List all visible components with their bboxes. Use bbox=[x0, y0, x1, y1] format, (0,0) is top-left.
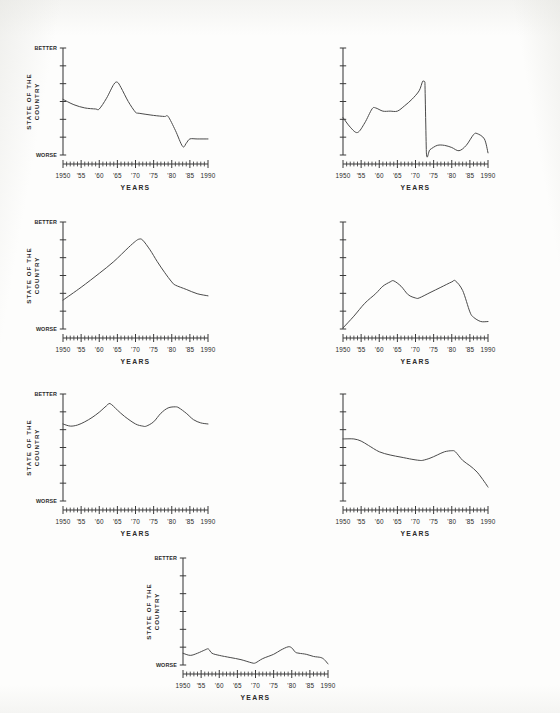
x-axis-title: YEARS bbox=[121, 358, 151, 365]
x-tick-label: 1990 bbox=[480, 518, 495, 525]
x-tick-label: 1990 bbox=[200, 172, 215, 179]
x-tick-label: '60 bbox=[215, 682, 224, 689]
x-tick-label: '85 bbox=[465, 518, 474, 525]
x-tick-label: 1950 bbox=[335, 518, 350, 525]
x-tick-label: '85 bbox=[185, 518, 194, 525]
data-line-panel-5 bbox=[63, 403, 208, 426]
y-axis-title-line2: COUNTRY bbox=[33, 83, 40, 121]
y-axis-worse-label: WORSE bbox=[36, 498, 57, 504]
x-tick-label: '85 bbox=[465, 172, 474, 179]
x-tick-label: '55 bbox=[77, 518, 86, 525]
x-tick-label: '85 bbox=[185, 346, 194, 353]
x-tick-label: '55 bbox=[357, 518, 366, 525]
data-line-panel-7 bbox=[183, 647, 328, 664]
x-tick-label: 1990 bbox=[320, 682, 335, 689]
x-tick-label: 1950 bbox=[175, 682, 190, 689]
x-tick-label: '65 bbox=[393, 346, 402, 353]
x-tick-label: '85 bbox=[305, 682, 314, 689]
y-axis-title-line2: COUNTRY bbox=[33, 429, 40, 467]
data-line-panel-4 bbox=[343, 280, 488, 328]
x-tick-label: '75 bbox=[149, 518, 158, 525]
x-axis-title: YEARS bbox=[241, 694, 271, 701]
x-tick-label: '65 bbox=[393, 518, 402, 525]
y-axis-worse-label: WORSE bbox=[156, 662, 177, 668]
x-tick-label: '55 bbox=[77, 346, 86, 353]
x-tick-label: 1950 bbox=[335, 346, 350, 353]
x-tick-label: 1950 bbox=[55, 518, 70, 525]
y-axis-better-label: BETTER bbox=[155, 555, 177, 561]
x-tick-label: '60 bbox=[95, 346, 104, 353]
y-axis-worse-label: WORSE bbox=[36, 326, 57, 332]
x-tick-label: '70 bbox=[131, 346, 140, 353]
y-axis-title-line2: COUNTRY bbox=[153, 593, 160, 631]
x-tick-label: '65 bbox=[233, 682, 242, 689]
x-tick-label: '75 bbox=[429, 172, 438, 179]
chart-panel-row1-left: BETTERWORSESTATE OF THECOUNTRY1950'55'60… bbox=[0, 22, 280, 202]
data-line-panel-1 bbox=[63, 82, 208, 147]
y-axis-title-line1: STATE OF THE bbox=[25, 247, 32, 303]
x-tick-label: 1950 bbox=[335, 172, 350, 179]
x-tick-label: '60 bbox=[375, 518, 384, 525]
x-tick-label: '75 bbox=[149, 346, 158, 353]
x-tick-label: '60 bbox=[375, 172, 384, 179]
x-tick-label: '65 bbox=[113, 346, 122, 353]
x-tick-label: '80 bbox=[287, 682, 296, 689]
y-axis-title-line1: STATE OF THE bbox=[25, 419, 32, 475]
x-axis-title: YEARS bbox=[121, 184, 151, 191]
y-axis-title-line1: STATE OF THE bbox=[25, 73, 32, 129]
x-tick-label: '75 bbox=[149, 172, 158, 179]
x-tick-label: '60 bbox=[95, 518, 104, 525]
y-axis-better-label: BETTER bbox=[35, 391, 57, 397]
x-axis-title: YEARS bbox=[401, 358, 431, 365]
x-tick-label: '80 bbox=[447, 172, 456, 179]
x-tick-label: '70 bbox=[131, 172, 140, 179]
chart-panel-row2-left: BETTERWORSESTATE OF THECOUNTRY1950'55'60… bbox=[0, 196, 280, 376]
chart-panel-row2-right: 1950'55'60'65'70'75'80'851990YEARS bbox=[280, 196, 560, 376]
x-tick-label: '85 bbox=[185, 172, 194, 179]
x-tick-label: '55 bbox=[77, 172, 86, 179]
x-tick-label: 1950 bbox=[55, 172, 70, 179]
x-tick-label: 1990 bbox=[200, 346, 215, 353]
x-tick-label: '75 bbox=[429, 346, 438, 353]
x-tick-label: 1990 bbox=[200, 518, 215, 525]
x-tick-label: '70 bbox=[411, 346, 420, 353]
y-axis-better-label: BETTER bbox=[35, 219, 57, 225]
data-line-panel-3 bbox=[63, 239, 208, 300]
x-tick-label: '80 bbox=[447, 346, 456, 353]
x-tick-label: '70 bbox=[251, 682, 260, 689]
x-tick-label: '65 bbox=[113, 518, 122, 525]
x-tick-label: '65 bbox=[113, 172, 122, 179]
y-axis-better-label: BETTER bbox=[35, 45, 57, 51]
y-axis-worse-label: WORSE bbox=[36, 152, 57, 158]
x-tick-label: '80 bbox=[167, 518, 176, 525]
x-tick-label: '80 bbox=[167, 172, 176, 179]
x-tick-label: '75 bbox=[269, 682, 278, 689]
x-tick-label: '55 bbox=[357, 172, 366, 179]
x-tick-label: '65 bbox=[393, 172, 402, 179]
x-tick-label: '85 bbox=[465, 346, 474, 353]
x-tick-label: '75 bbox=[429, 518, 438, 525]
x-tick-label: '80 bbox=[167, 346, 176, 353]
chart-panel-row4-center: BETTERWORSESTATE OF THECOUNTRY1950'55'60… bbox=[120, 532, 420, 712]
chart-panel-row3-left: BETTERWORSESTATE OF THECOUNTRY1950'55'60… bbox=[0, 368, 280, 548]
data-line-panel-2 bbox=[343, 81, 488, 157]
x-tick-label: '55 bbox=[357, 346, 366, 353]
data-line-panel-6 bbox=[343, 439, 488, 487]
x-tick-label: 1950 bbox=[55, 346, 70, 353]
x-tick-label: 1990 bbox=[480, 172, 495, 179]
x-tick-label: '60 bbox=[375, 346, 384, 353]
x-tick-label: '70 bbox=[411, 518, 420, 525]
x-tick-label: '70 bbox=[131, 518, 140, 525]
x-tick-label: 1990 bbox=[480, 346, 495, 353]
x-tick-label: '80 bbox=[447, 518, 456, 525]
y-axis-title-line1: STATE OF THE bbox=[145, 583, 152, 639]
x-tick-label: '70 bbox=[411, 172, 420, 179]
y-axis-title-line2: COUNTRY bbox=[33, 257, 40, 295]
chart-panel-row3-right: 1950'55'60'65'70'75'80'851990YEARS bbox=[280, 368, 560, 548]
chart-panel-row1-right: 1950'55'60'65'70'75'80'851990YEARS bbox=[280, 22, 560, 202]
x-axis-title: YEARS bbox=[401, 184, 431, 191]
x-tick-label: '60 bbox=[95, 172, 104, 179]
x-tick-label: '55 bbox=[197, 682, 206, 689]
